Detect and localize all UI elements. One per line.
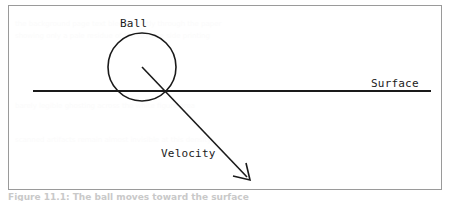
ball-label: Ball	[120, 18, 147, 29]
figure-caption: Figure 11.1: The ball moves toward the s…	[8, 193, 249, 201]
velocity-label: Velocity	[161, 148, 216, 159]
velocity-arrow	[142, 67, 250, 180]
figure-frame: the background page text bleeds faintly …	[8, 5, 442, 190]
figure-root: the background page text bleeds faintly …	[0, 0, 449, 201]
physics-diagram	[9, 6, 442, 190]
surface-label: Surface	[371, 78, 419, 89]
